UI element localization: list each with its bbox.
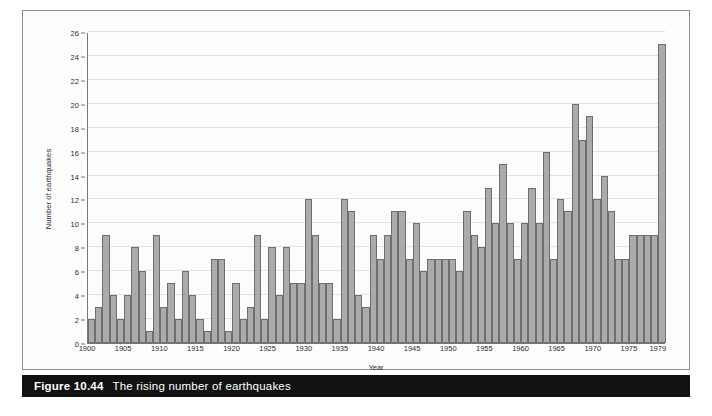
bar bbox=[167, 283, 174, 343]
y-axis-tick-mark bbox=[81, 296, 85, 297]
bar bbox=[124, 295, 131, 343]
bar bbox=[189, 295, 196, 343]
y-axis-tick-label: 8 bbox=[75, 244, 79, 253]
figure-page: Number of earthquakes 024681012141618202… bbox=[0, 0, 712, 416]
x-axis-tick-label: 1935 bbox=[332, 344, 349, 353]
figure-caption-number: Figure 10.44 bbox=[34, 380, 104, 392]
bar bbox=[312, 235, 319, 343]
x-axis-tick-mark bbox=[195, 340, 196, 344]
x-axis-tick-mark bbox=[376, 340, 377, 344]
bar bbox=[601, 176, 608, 343]
bar bbox=[232, 283, 239, 343]
bar bbox=[297, 283, 304, 343]
bar bbox=[644, 235, 651, 343]
bar bbox=[637, 235, 644, 343]
x-axis-tick-mark bbox=[448, 340, 449, 344]
y-axis-tick-label: 14 bbox=[70, 172, 79, 181]
bar bbox=[507, 223, 514, 343]
bar bbox=[139, 271, 146, 343]
y-axis-tick-label: 22 bbox=[70, 76, 79, 85]
bar bbox=[442, 259, 449, 343]
bar bbox=[341, 199, 348, 343]
bar bbox=[413, 223, 420, 343]
bar-series bbox=[88, 33, 665, 343]
bar bbox=[622, 259, 629, 343]
y-axis-tick-mark bbox=[81, 320, 85, 321]
bar bbox=[485, 188, 492, 344]
bar bbox=[384, 235, 391, 343]
bar bbox=[110, 295, 117, 343]
y-axis-tick-label: 10 bbox=[70, 220, 79, 229]
bar bbox=[536, 223, 543, 343]
y-axis-tick-label: 2 bbox=[75, 316, 79, 325]
x-axis-tick-mark bbox=[557, 340, 558, 344]
bar bbox=[557, 199, 564, 343]
bar bbox=[435, 259, 442, 343]
x-axis-tick-label: 1910 bbox=[151, 344, 168, 353]
x-axis-tick-mark bbox=[268, 340, 269, 344]
x-axis-tick-mark bbox=[658, 340, 659, 344]
bar bbox=[88, 319, 95, 343]
figure-caption-text: The rising number of earthquakes bbox=[113, 380, 291, 392]
gridline bbox=[88, 31, 665, 32]
bar bbox=[651, 235, 658, 343]
bar bbox=[629, 235, 636, 343]
bar bbox=[463, 211, 470, 343]
y-axis-tick-label: 20 bbox=[70, 100, 79, 109]
x-axis-tick-mark bbox=[87, 340, 88, 344]
bar bbox=[290, 283, 297, 343]
bar bbox=[355, 295, 362, 343]
bar bbox=[572, 104, 579, 343]
figure-caption-bar: Figure 10.44 The rising number of earthq… bbox=[22, 375, 690, 397]
bar bbox=[456, 271, 463, 343]
x-axis-tick-label: 1945 bbox=[404, 344, 421, 353]
x-axis-tick-label: 1905 bbox=[115, 344, 132, 353]
bar bbox=[182, 271, 189, 343]
y-axis-tick-label: 16 bbox=[70, 148, 79, 157]
y-axis-tick-mark bbox=[81, 224, 85, 225]
bar bbox=[471, 235, 478, 343]
x-axis-tick-label: 1940 bbox=[368, 344, 385, 353]
bar bbox=[492, 223, 499, 343]
bar bbox=[362, 307, 369, 343]
bar bbox=[247, 307, 254, 343]
x-axis-tick-mark bbox=[412, 340, 413, 344]
bar bbox=[276, 295, 283, 343]
x-axis-tick-label: 1915 bbox=[187, 344, 204, 353]
x-axis-tick-mark bbox=[304, 340, 305, 344]
y-axis-tick-label: 18 bbox=[70, 124, 79, 133]
x-axis-tick-label: 1925 bbox=[259, 344, 276, 353]
bar bbox=[95, 307, 102, 343]
bar bbox=[564, 211, 571, 343]
bar bbox=[268, 247, 275, 343]
bar bbox=[514, 259, 521, 343]
x-axis-label: Year bbox=[87, 363, 665, 372]
bar bbox=[377, 259, 384, 343]
x-axis-tick-mark bbox=[593, 340, 594, 344]
bar bbox=[153, 235, 160, 343]
y-axis-tick-mark bbox=[81, 248, 85, 249]
bar bbox=[586, 116, 593, 343]
bar bbox=[528, 188, 535, 344]
bar bbox=[593, 199, 600, 343]
bar bbox=[420, 271, 427, 343]
y-axis-tick-label: 24 bbox=[70, 52, 79, 61]
bar bbox=[319, 283, 326, 343]
bar bbox=[160, 307, 167, 343]
bar bbox=[499, 164, 506, 343]
bar bbox=[305, 199, 312, 343]
x-axis-tick-mark bbox=[521, 340, 522, 344]
bar bbox=[102, 235, 109, 343]
y-axis-ticks: 02468101214161820222426 bbox=[23, 33, 85, 344]
y-axis-tick-mark bbox=[81, 80, 85, 81]
y-axis-tick-mark bbox=[81, 152, 85, 153]
y-axis-tick-mark bbox=[81, 56, 85, 57]
x-axis-tick-mark bbox=[629, 340, 630, 344]
bar bbox=[204, 331, 211, 343]
bar bbox=[240, 319, 247, 343]
bar bbox=[175, 319, 182, 343]
x-axis-tick-label: 1930 bbox=[295, 344, 312, 353]
x-axis-tick-label: 1950 bbox=[440, 344, 457, 353]
bar bbox=[478, 247, 485, 343]
y-axis-tick-label: 12 bbox=[70, 196, 79, 205]
